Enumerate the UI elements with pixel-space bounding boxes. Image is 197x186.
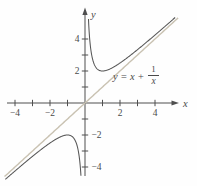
y-tick-label: 2 bbox=[75, 66, 80, 76]
equation-fraction: 1 x bbox=[148, 65, 158, 87]
asymptote-line-y-equals-x bbox=[5, 18, 179, 177]
x-axis-label: x bbox=[182, 98, 188, 109]
curve-equation-label: y = x + 1 x bbox=[113, 61, 159, 91]
x-tick-label: −2 bbox=[45, 108, 55, 118]
x-tick-label: −4 bbox=[10, 108, 20, 118]
x-tick-label: 2 bbox=[118, 108, 123, 118]
y-tick-label: −2 bbox=[92, 130, 102, 140]
x-tick-label: 4 bbox=[153, 108, 158, 118]
equation-prefix: y = x + bbox=[113, 71, 144, 82]
y-tick-label: −4 bbox=[92, 162, 102, 172]
y-axis-label: y bbox=[90, 9, 96, 20]
function-plot-figure: x y −4−22442−2−4 y = x + 1 x bbox=[0, 0, 197, 186]
y-axis-arrow-icon bbox=[82, 8, 87, 16]
y-tick-label: 4 bbox=[75, 34, 80, 44]
x-axis-arrow-icon bbox=[172, 100, 180, 105]
equation-fraction-numerator: 1 bbox=[149, 65, 158, 75]
equation-fraction-denominator: x bbox=[148, 75, 158, 87]
plot-area: x y −4−22442−2−4 bbox=[0, 0, 197, 186]
